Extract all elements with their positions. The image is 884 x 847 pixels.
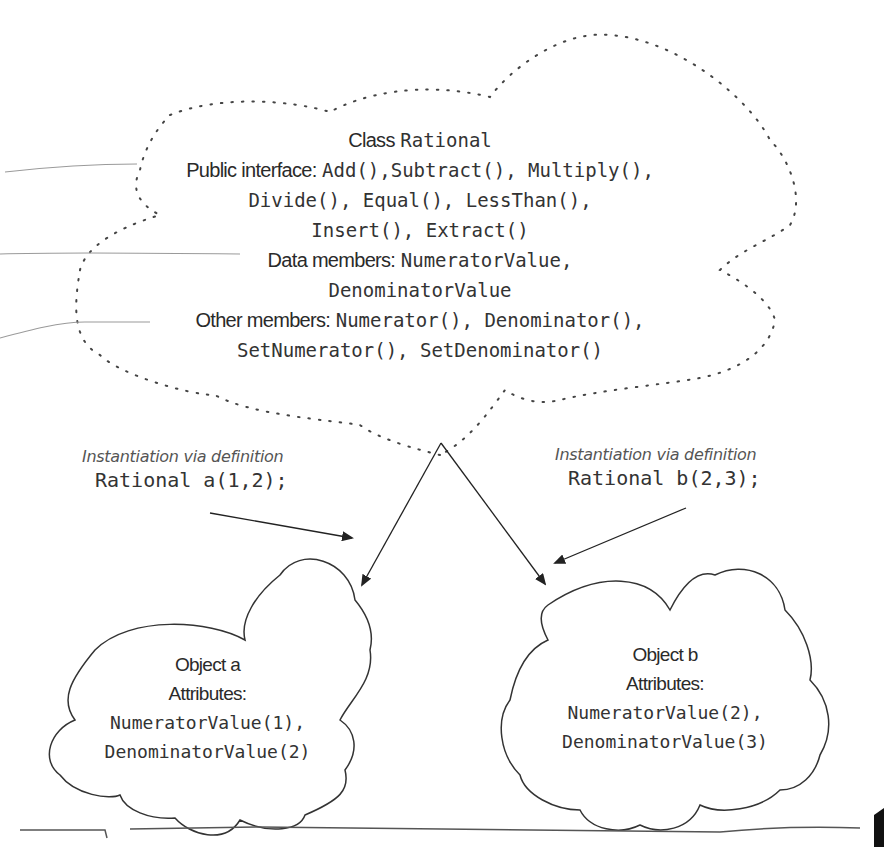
public-interface-line-2: Divide(), Equal(), LessThan(), — [110, 185, 730, 215]
object-a-title: Object a — [70, 650, 345, 679]
data-members-line: Data members: NumeratorValue, — [110, 245, 730, 275]
instantiation-a-code: Rational a(1,2); — [95, 468, 288, 492]
public-interface-line-3: Insert(), Extract() — [110, 215, 730, 245]
instantiation-b-code: Rational b(2,3); — [568, 466, 761, 490]
object-a-numerator-value: NumeratorValue(1), — [70, 708, 345, 737]
baseline-rule — [20, 827, 860, 838]
object-b-attributes-label: Attributes: — [520, 669, 810, 698]
public-interface-line: Public interface: Add(),Subtract(), Mult… — [110, 155, 730, 185]
instantiation-b-caption: Instantiation via definition — [555, 445, 756, 464]
class-title: Class Rational — [110, 125, 730, 155]
object-b-numerator-value: NumeratorValue(2), — [520, 698, 810, 727]
instantiation-a-caption: Instantiation via definition — [82, 447, 283, 466]
arrow-class-to-object-a — [362, 443, 441, 585]
corner-mark — [874, 808, 884, 847]
object-a: Object a Attributes: NumeratorValue(1), … — [70, 650, 345, 766]
object-b: Object b Attributes: NumeratorValue(2), … — [520, 640, 810, 756]
arrow-instantiation-a — [210, 513, 352, 538]
object-b-title: Object b — [520, 640, 810, 669]
other-members-line-2: SetNumerator(), SetDenominator() — [110, 335, 730, 365]
arrow-class-to-object-b — [441, 443, 545, 584]
data-members-line-2: DenominatorValue — [110, 275, 730, 305]
object-b-denominator-value: DenominatorValue(3) — [520, 727, 810, 756]
object-a-denominator-value: DenominatorValue(2) — [70, 737, 345, 766]
object-a-attributes-label: Attributes: — [70, 679, 345, 708]
class-rational-description: Class Rational Public interface: Add(),S… — [110, 125, 730, 365]
other-members-line: Other members: Numerator(), Denominator(… — [110, 305, 730, 335]
arrow-instantiation-b — [555, 508, 686, 563]
